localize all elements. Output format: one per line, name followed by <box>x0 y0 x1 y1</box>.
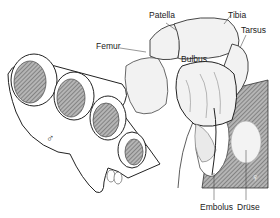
label-patella: Patella <box>149 11 175 20</box>
female-symbol-icon: ♀ <box>251 172 259 183</box>
label-tarsus: Tarsus <box>241 26 266 35</box>
label-tibia: Tibia <box>228 11 246 20</box>
spider-palp-diagram: Patella Tibia Tarsus Femur Bulbus Embolu… <box>0 0 280 218</box>
diagram-drawing <box>0 0 280 218</box>
label-femur: Femur <box>96 42 121 51</box>
label-embolus: Embolus <box>200 203 233 212</box>
label-bulbus: Bulbus <box>181 55 207 64</box>
label-druse: Drüse <box>237 203 260 212</box>
male-symbol-icon: ♂ <box>46 133 54 144</box>
